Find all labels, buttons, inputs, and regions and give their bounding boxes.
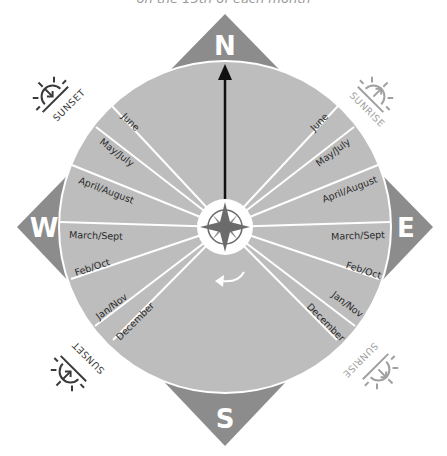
sunrise-label-bottom-right: SUNRISE xyxy=(341,341,381,381)
sunset-label-top-left: SUNSET xyxy=(51,87,88,124)
west-label: W xyxy=(30,213,59,243)
south-label: S xyxy=(216,404,235,434)
sunset-icon xyxy=(42,354,89,401)
east-label: E xyxy=(397,213,415,243)
north-label: N xyxy=(214,31,236,61)
sun-direction-compass: N S W E June May/July April/August March… xyxy=(0,0,447,456)
month-label-right: March/Sept xyxy=(331,229,385,242)
month-label-left: March/Sept xyxy=(69,229,123,242)
compass-rose-icon xyxy=(197,199,253,255)
